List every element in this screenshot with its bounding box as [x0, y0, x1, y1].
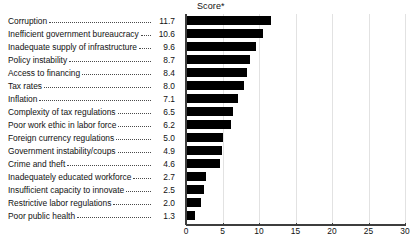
bar: [186, 68, 247, 77]
dot-leader: [118, 147, 151, 155]
bar-series: [186, 14, 405, 224]
dot-leader: [77, 212, 151, 220]
bar: [186, 146, 222, 155]
category-label: Inflation: [0, 94, 37, 104]
bar: [186, 16, 271, 25]
dot-leader: [49, 17, 151, 25]
category-value: 4.6: [153, 159, 180, 169]
dot-leader: [113, 199, 151, 207]
category-label: Corruption: [0, 16, 47, 26]
bar-row: [186, 79, 405, 92]
bar: [186, 107, 233, 116]
bar: [186, 133, 223, 142]
dot-leader: [39, 95, 151, 103]
dot-leader: [133, 173, 151, 181]
category-label: Complexity of tax regulations: [0, 107, 116, 117]
category-row: Poor work ethic in labor force6.2: [0, 118, 180, 131]
category-value: 5.0: [153, 133, 180, 143]
category-value: 9.6: [153, 42, 180, 52]
bar: [186, 81, 244, 90]
category-row: Corruption11.7: [0, 14, 180, 27]
chart-title: Score*: [197, 1, 225, 11]
dot-leader: [116, 134, 151, 142]
x-tick-label: 25: [364, 226, 373, 236]
category-row: Tax rates8.0: [0, 79, 180, 92]
bar: [186, 55, 250, 64]
category-label: Poor public health: [0, 211, 75, 221]
plot-area: [186, 14, 405, 224]
bar: [186, 185, 204, 194]
bar: [186, 198, 201, 207]
category-value: 2.7: [153, 172, 180, 182]
category-row: Policy instability8.7: [0, 53, 180, 66]
bar-row: [186, 196, 405, 209]
bar-row: [186, 14, 405, 27]
x-tick-label: 20: [327, 226, 336, 236]
bar-row: [186, 170, 405, 183]
x-tick-label: 0: [184, 226, 189, 236]
x-tick-label: 10: [254, 226, 263, 236]
category-label: Government instability/coups: [0, 146, 116, 156]
bar-row: [186, 131, 405, 144]
category-value: 11.7: [153, 16, 180, 26]
category-row: Restrictive labor regulations2.0: [0, 196, 180, 209]
category-label-column: Corruption11.7Inefficient government bur…: [0, 14, 180, 222]
category-row: Foreign currency regulations5.0: [0, 131, 180, 144]
category-value: 1.3: [153, 211, 180, 221]
category-row: Access to financing8.4: [0, 66, 180, 79]
dot-leader: [118, 108, 151, 116]
bar-row: [186, 209, 405, 222]
category-row: Complexity of tax regulations6.5: [0, 105, 180, 118]
category-label: Policy instability: [0, 55, 67, 65]
bar-row: [186, 105, 405, 118]
category-label: Poor work ethic in labor force: [0, 120, 116, 130]
category-label: Insufficient capacity to innovate: [0, 185, 124, 195]
category-value: 8.4: [153, 68, 180, 78]
category-label: Restrictive labor regulations: [0, 198, 111, 208]
category-value: 4.9: [153, 146, 180, 156]
dot-leader: [141, 30, 151, 38]
category-row: Crime and theft4.6: [0, 157, 180, 170]
bar: [186, 211, 195, 220]
bar-row: [186, 27, 405, 40]
category-label: Inadequate supply of infrastructure: [0, 42, 137, 52]
dot-leader: [69, 56, 151, 64]
bar: [186, 120, 231, 129]
chart-container: Score* Corruption11.7Inefficient governm…: [0, 0, 412, 249]
category-row: Poor public health1.3: [0, 209, 180, 222]
bar-row: [186, 157, 405, 170]
bar-row: [186, 53, 405, 66]
gridline: [405, 14, 406, 224]
category-row: Inadequately educated workforce2.7: [0, 170, 180, 183]
bar: [186, 159, 220, 168]
dot-leader: [126, 186, 151, 194]
x-tick-label: 15: [291, 226, 300, 236]
category-row: Insufficient capacity to innovate2.5: [0, 183, 180, 196]
dot-leader: [44, 82, 151, 90]
category-label: Inefficient government bureaucracy: [0, 29, 139, 39]
category-row: Inefficient government bureaucracy10.6: [0, 27, 180, 40]
category-value: 2.0: [153, 198, 180, 208]
bar-row: [186, 92, 405, 105]
x-tick-label: 5: [220, 226, 225, 236]
bar-row: [186, 144, 405, 157]
category-label: Access to financing: [0, 68, 80, 78]
category-label: Crime and theft: [0, 159, 65, 169]
category-value: 8.7: [153, 55, 180, 65]
category-label: Inadequately educated workforce: [0, 172, 131, 182]
dot-leader: [82, 69, 151, 77]
bar-row: [186, 40, 405, 53]
bar-row: [186, 66, 405, 79]
x-axis-ticks: 051015202530: [186, 226, 405, 242]
bar: [186, 172, 206, 181]
category-value: 10.6: [153, 29, 180, 39]
bar: [186, 42, 256, 51]
category-label: Tax rates: [0, 81, 42, 91]
dot-leader: [139, 43, 151, 51]
category-value: 7.1: [153, 94, 180, 104]
bar: [186, 29, 263, 38]
dot-leader: [67, 160, 151, 168]
bar-row: [186, 183, 405, 196]
bar-row: [186, 118, 405, 131]
category-row: Inflation7.1: [0, 92, 180, 105]
